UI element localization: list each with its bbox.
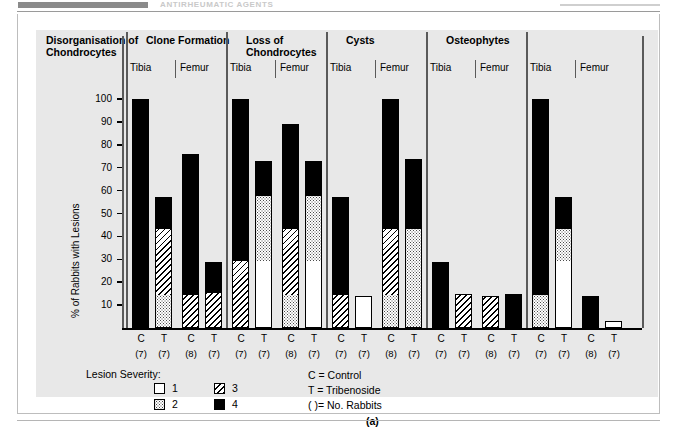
chart-legend: Lesion Severity:1234C = ControlT = Tribe… [36,368,658,428]
bar-sample-size-label: (7) [429,348,453,359]
bone-label: Tibia [430,62,451,73]
group-divider [226,32,228,328]
bar-sample-size-label: (7) [129,348,153,359]
bone-divider [175,60,176,78]
bar[interactable] [282,124,299,328]
bar[interactable] [432,262,449,328]
bar-sample-size-label: (7) [352,348,376,359]
bar[interactable] [482,296,499,328]
figure-frame: Disorganisation of ChondrocytesClone For… [17,14,660,414]
bar-segment-severity-2 [383,295,398,327]
bar-segment-severity-4 [233,99,248,261]
bar-sample-size-label: (7) [502,348,526,359]
y-tick-label: 30 [86,253,112,264]
bar[interactable] [505,294,522,328]
bar[interactable] [332,197,349,328]
bar-segment-severity-1 [256,261,271,327]
legend-title: Lesion Severity: [86,368,161,380]
bar-segment-severity-4 [433,262,448,327]
bar-category-label: T [404,333,424,344]
bar-category-label: C [331,333,351,344]
bar[interactable] [255,161,272,328]
bar-sample-size-label: (7) [552,348,576,359]
bar-segment-severity-1 [356,296,371,327]
bar-sample-size-label: (7) [329,348,353,359]
bar[interactable] [232,99,249,328]
bar-segment-severity-1 [306,261,321,327]
chart-panel: Disorganisation of ChondrocytesClone For… [36,30,658,397]
y-tick-label: 90 [86,116,112,127]
bar[interactable] [582,296,599,328]
bar[interactable] [605,321,622,328]
bar-sample-size-label: (7) [252,348,276,359]
bar-segment-severity-4 [556,197,571,228]
legend-label-severity-3: 3 [232,382,238,394]
bar-category-label: T [354,333,374,344]
page-header: ANTIRHEUMATIC AGENTS [0,0,677,12]
bar-sample-size-label: (7) [602,348,626,359]
bar[interactable] [455,294,472,328]
bar-segment-severity-4 [383,99,398,229]
legend-note: C = Control [308,369,361,381]
bar[interactable] [205,262,222,328]
bone-label: Tibia [330,62,351,73]
y-axis-label: % of Rabbits with Lesions [70,203,81,318]
bone-divider [575,60,576,78]
bone-label: Femur [480,62,509,73]
x-axis-line [122,328,642,330]
legend-swatch-severity-1 [154,383,165,394]
bar-category-label: T [554,333,574,344]
bar[interactable] [532,99,549,328]
bone-divider [375,60,376,78]
bone-label: Tibia [230,62,251,73]
bar-segment-severity-4 [206,262,221,293]
bar[interactable] [382,99,399,328]
bar-segment-severity-3 [156,229,171,295]
page-bottom-rule [17,420,660,421]
group-divider [426,32,428,328]
y-tick-label: 10 [86,299,112,310]
bone-label: Femur [580,62,609,73]
bone-label: Femur [380,62,409,73]
bar-category-label: C [531,333,551,344]
bar[interactable] [182,154,199,328]
bar-segment-severity-4 [583,296,598,327]
bar[interactable] [305,161,322,328]
bar[interactable] [555,197,572,328]
legend-label-severity-1: 1 [172,382,178,394]
bar-sample-size-label: (8) [479,348,503,359]
bar-segment-severity-3 [456,294,471,327]
bone-label: Femur [180,62,209,73]
header-rule-left [18,2,148,8]
panel-letter: (a) [366,415,379,427]
bar-segment-severity-2 [556,229,571,261]
bar[interactable] [405,159,422,328]
bar-segment-severity-4 [406,159,421,229]
bar-sample-size-label: (8) [579,348,603,359]
bar-segment-severity-4 [283,124,298,228]
bar[interactable] [155,197,172,328]
bar-category-label: C [281,333,301,344]
bar-sample-size-label: (7) [302,348,326,359]
bar-segment-severity-2 [306,196,321,260]
bar[interactable] [355,296,372,328]
bar[interactable] [132,99,149,328]
bar-segment-severity-2 [256,196,271,260]
legend-swatch-severity-2 [154,399,165,410]
bar-segment-severity-4 [156,197,171,228]
bone-divider [275,60,276,78]
bar-segment-severity-4 [183,154,198,295]
legend-note: ( )= No. Rabbits [308,399,382,411]
bar-sample-size-label: (7) [452,348,476,359]
bar-category-label: C [381,333,401,344]
bar-sample-size-label: (7) [152,348,176,359]
bar-category-label: C [581,333,601,344]
header-underline [17,11,660,12]
legend-label-severity-4: 4 [232,398,238,410]
group-divider [126,32,128,328]
bar-category-label: C [131,333,151,344]
bar-category-label: T [454,333,474,344]
bar-segment-severity-2 [156,295,171,327]
bar-segment-severity-2 [283,295,298,327]
bar-segment-severity-3 [183,295,198,327]
